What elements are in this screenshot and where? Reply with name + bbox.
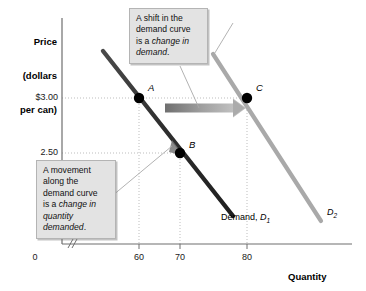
callout-shift-line3: is a change in [136, 36, 202, 47]
leader-shift-2 [180, 66, 199, 108]
callout-movement-line4: is a change in [43, 199, 110, 210]
callout-shift-in-demand: A shift in the demand curve is a change … [129, 8, 208, 64]
x-tick-label-80: 80 [239, 252, 255, 263]
point-label-a: A [148, 82, 154, 93]
curve-label-d1-sub: 1 [267, 217, 271, 224]
callout-shift-line3-em: change in [152, 36, 189, 46]
demand-curve-d1 [103, 51, 233, 216]
leader-shift [213, 23, 233, 56]
callout-shift-line2: demand curve [136, 24, 202, 35]
point-a [134, 93, 144, 103]
callout-movement-line5-em: quantity [43, 211, 73, 221]
callout-shift-line4-em: demand [136, 47, 167, 57]
callout-movement-along-curve: A movement along the demand curve is a c… [36, 160, 116, 239]
x-tick-marks [139, 244, 247, 249]
callout-shift-line4-plain: . [167, 47, 169, 57]
callout-movement-line4-em: change in [59, 199, 96, 209]
point-c [242, 93, 252, 103]
y-axis-title-line1: Price [0, 36, 57, 47]
shift-arrow [165, 99, 246, 118]
callout-movement-line4-plain: is a [43, 199, 59, 209]
callout-movement-line6-plain: . [84, 222, 86, 232]
y-axis-title: Price (dollars per can) [0, 14, 57, 137]
curve-label-d2: D2 [327, 207, 337, 219]
y-tick-label-250: 2.50 [20, 147, 58, 158]
callout-movement-line2: along the [43, 176, 110, 187]
callout-shift-line3-plain: is a [136, 36, 152, 46]
point-label-b: B [189, 139, 195, 150]
curve-label-d1: Demand, D1 [221, 212, 270, 224]
point-b [175, 148, 185, 158]
demand-curve-figure: Price (dollars per can) Quantity (millio… [0, 0, 366, 291]
y-tick-label-300: $3.00 [20, 92, 58, 103]
curve-label-d2-sub: 2 [334, 212, 338, 219]
y-axis-title-line3: per can) [0, 104, 57, 115]
x-axis-title: Quantity (millions of cans per day) [288, 249, 366, 291]
callout-movement-line5: quantity [43, 211, 110, 222]
x-tick-label-60: 60 [131, 252, 147, 263]
demand-curve-d2 [213, 54, 321, 221]
callout-shift-line1: A shift in the [136, 13, 202, 24]
x-tick-label-origin: 0 [28, 252, 42, 263]
y-axis-title-line2: (dollars [0, 70, 57, 81]
callout-movement-line6: demanded. [43, 222, 110, 233]
point-label-c: C [256, 82, 263, 93]
curve-label-d1-text: Demand, [221, 212, 260, 222]
callout-movement-line6-em: demanded [43, 222, 84, 232]
callout-movement-line3: demand curve [43, 188, 110, 199]
leader-movement [112, 146, 172, 196]
callout-movement-line1: A movement [43, 165, 110, 176]
x-tick-label-70: 70 [172, 252, 188, 263]
x-axis-title-line1: Quantity [288, 271, 366, 282]
callout-shift-line4: demand. [136, 47, 202, 58]
